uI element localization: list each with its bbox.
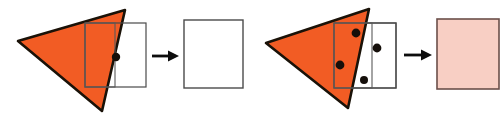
panel-one-graphics bbox=[0, 0, 252, 119]
panel-two-graphics bbox=[252, 0, 504, 119]
sample-dot bbox=[112, 53, 120, 61]
sample-dot bbox=[360, 76, 368, 84]
output-square-filled bbox=[437, 19, 499, 89]
transform-arrow bbox=[404, 50, 432, 61]
output-square-empty bbox=[184, 20, 243, 88]
sample-dot bbox=[336, 61, 345, 70]
orange-triangle bbox=[18, 10, 125, 111]
orange-triangle bbox=[266, 9, 369, 108]
sample-dot bbox=[373, 44, 382, 53]
panel-one bbox=[0, 0, 252, 119]
sample-dot bbox=[352, 29, 361, 38]
panel-two bbox=[252, 0, 504, 119]
figure-root bbox=[0, 0, 504, 119]
transform-arrow bbox=[152, 51, 179, 62]
